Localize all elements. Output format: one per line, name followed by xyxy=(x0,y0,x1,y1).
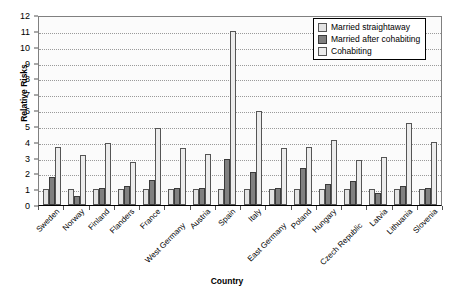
x-tick-label: Latvia xyxy=(368,207,389,228)
legend-swatch-icon-married-after-cohabiting xyxy=(318,35,327,44)
chart-legend: Married straightaway Married after cohab… xyxy=(313,18,426,60)
bar xyxy=(331,140,337,205)
bar xyxy=(130,162,136,205)
y-tick-label: 11 xyxy=(4,27,30,37)
x-tick-label: Hungary xyxy=(311,207,339,235)
bar-group xyxy=(190,17,215,205)
bar xyxy=(205,154,211,205)
bar xyxy=(105,143,111,205)
x-tick-label: Austria xyxy=(189,207,213,231)
x-tick-label: Czech Republic xyxy=(318,221,364,267)
y-tick-label: 4 xyxy=(4,138,30,148)
y-tick-label: 0 xyxy=(4,201,30,211)
bar-group xyxy=(240,17,265,205)
x-tick-label: East Germany xyxy=(246,221,289,264)
legend-item-married-after-cohabiting: Married after cohabiting xyxy=(318,34,420,44)
x-tick-label: West Germany xyxy=(143,221,187,265)
bar xyxy=(55,147,61,205)
legend-item-married-straightaway: Married straightaway xyxy=(318,22,420,32)
x-tick-label: France xyxy=(138,207,162,231)
bar xyxy=(230,31,236,205)
bar-group xyxy=(215,17,240,205)
y-tick-label: 2 xyxy=(4,169,30,179)
x-axis-labels: SwedenNorwayFinlandFlandersFranceWest Ge… xyxy=(38,207,442,269)
x-tick-label: Lithuania xyxy=(385,207,414,236)
legend-label-married-after-cohabiting: Married after cohabiting xyxy=(331,34,420,44)
bar-group xyxy=(114,17,139,205)
legend-swatch-icon-cohabiting xyxy=(318,47,327,56)
bar xyxy=(180,148,186,205)
bar xyxy=(406,123,412,205)
bar-group xyxy=(165,17,190,205)
bar xyxy=(356,160,362,205)
legend-label-cohabiting: Cohabiting xyxy=(331,46,372,56)
x-tick-label: Sweden xyxy=(34,207,61,234)
y-tick-label: 3 xyxy=(4,154,30,164)
legend-label-married-straightaway: Married straightaway xyxy=(331,22,410,32)
x-tick-label: Spain xyxy=(217,207,238,228)
x-axis-title: Country xyxy=(0,276,454,286)
bar-group xyxy=(140,17,165,205)
bar xyxy=(155,128,161,205)
y-tick-label: 9 xyxy=(4,59,30,69)
bar-group xyxy=(64,17,89,205)
y-tick-label: 6 xyxy=(4,106,30,116)
x-tick-label: Flanders xyxy=(108,207,136,235)
y-tick-label: 1 xyxy=(4,185,30,195)
bar xyxy=(80,155,86,205)
bar xyxy=(431,142,437,205)
bar xyxy=(306,147,312,205)
y-tick-label: 10 xyxy=(4,43,30,53)
bar-group xyxy=(265,17,290,205)
y-tick-label: 8 xyxy=(4,74,30,84)
y-tick-label: 12 xyxy=(4,11,30,21)
x-tick-label: Italy xyxy=(246,207,263,224)
bar-group xyxy=(89,17,114,205)
x-tick-mark xyxy=(442,206,443,210)
bar xyxy=(381,157,387,205)
x-tick-label: Norway xyxy=(61,207,87,233)
bar xyxy=(281,148,287,205)
y-tick-label: 5 xyxy=(4,122,30,132)
legend-item-cohabiting: Cohabiting xyxy=(318,46,420,56)
legend-swatch-icon-married-straightaway xyxy=(318,23,327,32)
bar-group xyxy=(290,17,315,205)
x-tick-label: Slovenia xyxy=(412,207,440,235)
bar-group xyxy=(39,17,64,205)
bar xyxy=(256,111,262,205)
y-tick-label: 7 xyxy=(4,90,30,100)
relative-risks-bar-chart: Relative Risks 0123456789101112 SwedenNo… xyxy=(0,0,454,296)
